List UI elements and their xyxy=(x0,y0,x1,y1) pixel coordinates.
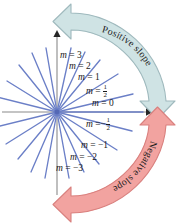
origin-point xyxy=(55,110,60,115)
ray-slope-2-neg xyxy=(18,112,57,159)
slope-label-m-neg-half: m =− 1 2 xyxy=(86,117,110,132)
ray-slope-neg-1-neg xyxy=(7,81,57,112)
slope-label-m-neg-1: m = −1 xyxy=(81,141,108,151)
ray-slope-3-neg xyxy=(31,112,57,172)
ray-slope-vertical-up xyxy=(46,48,57,112)
slope-label-m-2: m = 2 xyxy=(69,62,91,72)
slope-label-m-neg-3: m = −3 xyxy=(56,164,83,174)
slope-label-m-1: m = 1 xyxy=(78,73,100,83)
fraction-one-half: 1 2 xyxy=(103,84,108,99)
slope-label-m-0: m = 0 xyxy=(92,99,114,109)
fraction-neg-one-half: 1 2 xyxy=(106,117,111,132)
slope-label-m-neg-2: m = −2 xyxy=(70,153,97,163)
slope-label-m-3: m = 3 xyxy=(60,51,82,61)
ray-slope-neg-3-neg xyxy=(32,53,57,112)
diagram-canvas: Positive slope Negative slope xyxy=(0,0,191,223)
ray-slope-neg-2-neg xyxy=(19,65,57,112)
ray-slope-neg-half-neg xyxy=(0,97,57,112)
ray-slope-half-neg xyxy=(0,112,57,127)
slope-label-m-half: m = 1 2 xyxy=(86,84,107,99)
slope-diagram-figure: Positive slope Negative slope m = 3 m = … xyxy=(0,0,191,223)
y-axis-arrowhead-icon xyxy=(53,30,60,37)
